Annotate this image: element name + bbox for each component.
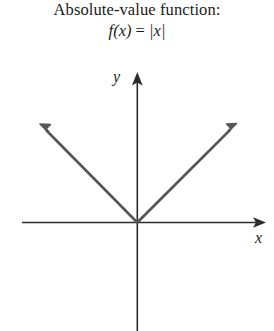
absolute-value-curve	[40, 124, 237, 223]
x-axis-label: x	[255, 230, 262, 246]
curve-left-ray	[47, 131, 138, 223]
coordinate-plane: y x	[0, 60, 274, 331]
figure-formula: f(x) = |x|	[0, 20, 274, 42]
figure-title: Absolute-value function:	[0, 0, 274, 20]
figure-absolute-value-function: Absolute-value function: f(x) = |x| y x	[0, 0, 274, 331]
figure-caption: Absolute-value function: f(x) = |x|	[0, 0, 274, 42]
curve-right-ray	[137, 130, 230, 223]
curve-left-arrowhead-icon	[40, 124, 51, 134]
curve-right-arrowhead-icon	[227, 124, 237, 134]
y-axis-label: y	[113, 69, 120, 85]
formula-equals: =	[136, 21, 145, 40]
graph-svg	[0, 60, 274, 331]
formula-rhs: |x|	[149, 21, 165, 40]
axes-group	[22, 72, 266, 331]
formula-lhs: f(x)	[109, 21, 132, 40]
